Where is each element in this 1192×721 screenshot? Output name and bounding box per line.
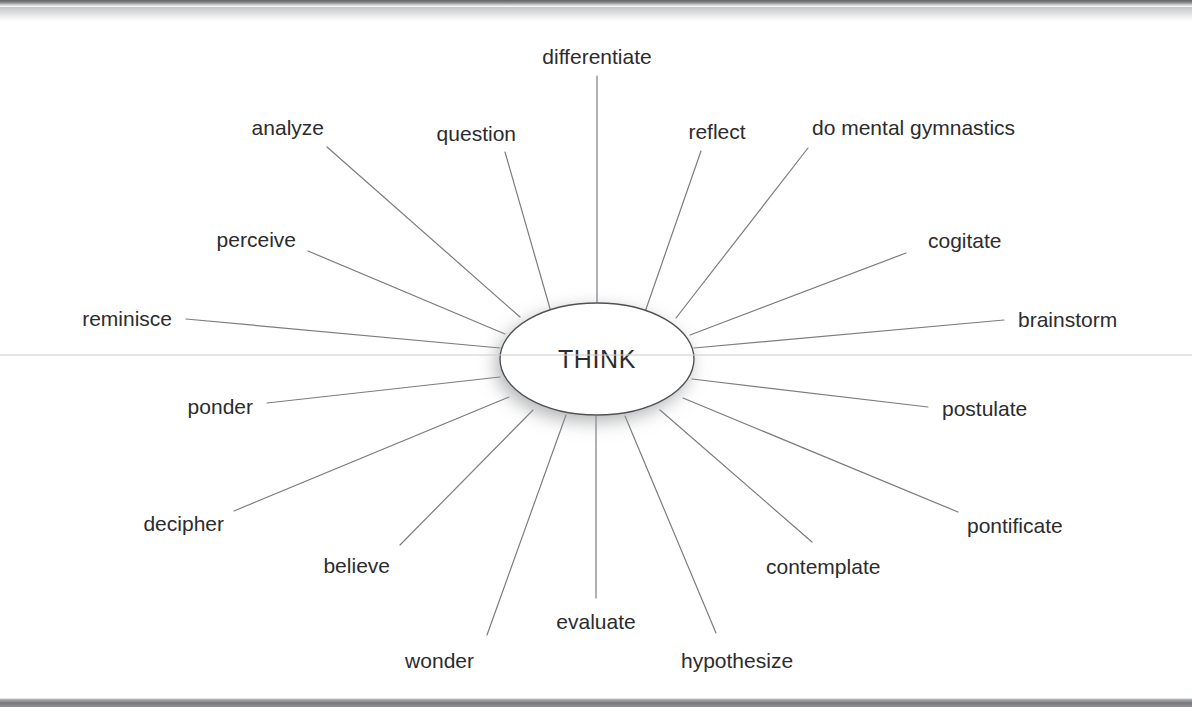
spoke-label: question (437, 123, 516, 144)
spoke-line (400, 410, 533, 545)
spoke-label: hypothesize (681, 650, 793, 671)
spoke-label: perceive (217, 229, 296, 250)
spoke-line (505, 152, 551, 312)
spoke-line (625, 416, 716, 633)
spoke-label: pontificate (967, 515, 1063, 536)
spoke-label: analyze (252, 117, 324, 138)
spoke-label: postulate (942, 398, 1027, 419)
spoke-label: reflect (688, 121, 745, 142)
spoke-label: differentiate (542, 46, 651, 67)
spoke-line (267, 377, 500, 403)
spoke-label: reminisce (82, 308, 172, 329)
spoke-line (694, 320, 1004, 348)
spoke-label: cogitate (928, 230, 1002, 251)
spoke-label: ponder (188, 396, 253, 417)
spoke-label: brainstorm (1018, 309, 1117, 330)
spoke-line (327, 147, 520, 317)
page-scan-artifact (0, 354, 1192, 356)
spoke-line (660, 410, 812, 542)
page-bottom-margin (0, 707, 1192, 721)
spoke-label: evaluate (556, 611, 635, 632)
spoke-label: do mental gymnastics (812, 117, 1015, 138)
spoke-label: believe (323, 555, 390, 576)
spoke-line (683, 398, 958, 512)
scanned-page: differentiatereflectdo mental gymnastics… (0, 0, 1192, 721)
spoke-line (692, 379, 928, 407)
spoke-line (234, 397, 509, 511)
spoke-label: decipher (143, 513, 224, 534)
spoke-line (487, 415, 566, 635)
page-bottom-edge (0, 698, 1192, 707)
spoke-line (186, 319, 500, 348)
spoke-line (676, 148, 808, 318)
spoke-label: wonder (405, 650, 474, 671)
spoke-line (308, 251, 505, 334)
spoke-line (645, 151, 701, 312)
center-label: THINK (558, 345, 636, 374)
spoke-label: contemplate (766, 556, 880, 577)
spoke-line (690, 253, 906, 335)
